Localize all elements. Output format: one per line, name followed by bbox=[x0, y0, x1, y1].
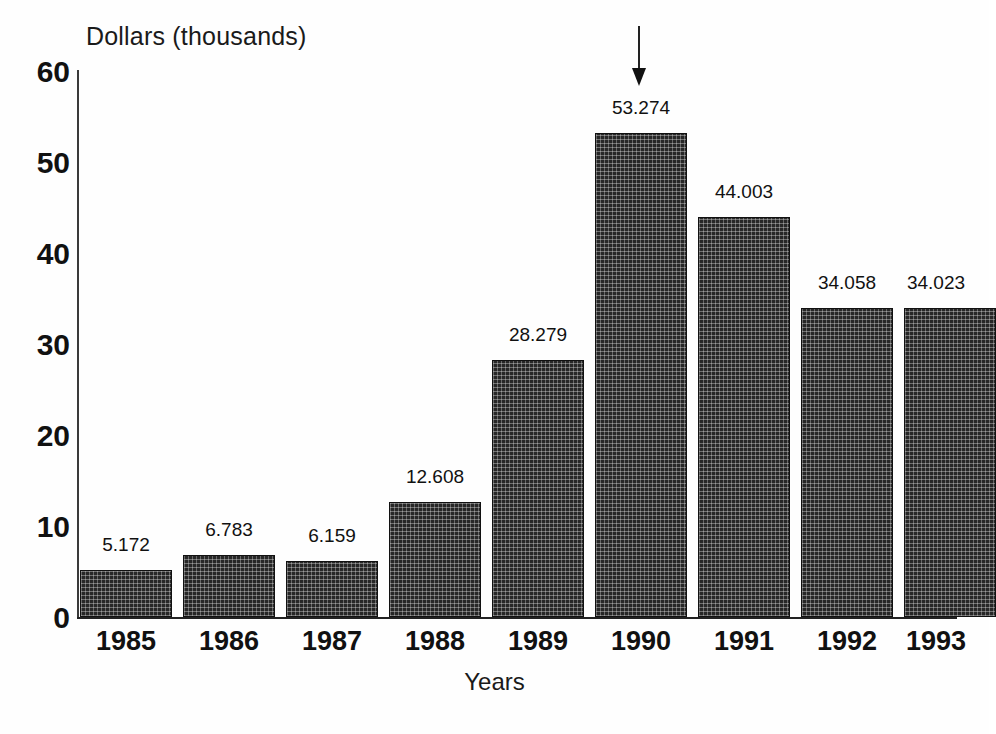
arrow-shaft bbox=[638, 26, 640, 72]
bar-1991[interactable] bbox=[698, 217, 790, 617]
x-tick-label-1992: 1992 bbox=[801, 626, 893, 657]
bar-1993[interactable] bbox=[904, 308, 996, 617]
bar-value-1989: 28.279 bbox=[492, 324, 584, 346]
bar-1989[interactable] bbox=[492, 360, 584, 617]
bar-value-1988: 12.608 bbox=[389, 466, 481, 488]
bar-value-1992: 34.058 bbox=[801, 272, 893, 294]
bar-1986[interactable] bbox=[183, 555, 275, 617]
bar-value-1991: 44.003 bbox=[698, 181, 790, 203]
x-tick-label-1986: 1986 bbox=[183, 626, 275, 657]
x-tick-label-1991: 1991 bbox=[698, 626, 790, 657]
arrow-head bbox=[632, 68, 646, 86]
bar-1992[interactable] bbox=[801, 308, 893, 617]
x-tick-label-1993: 1993 bbox=[890, 626, 982, 657]
bar-value-1987: 6.159 bbox=[286, 525, 378, 547]
annotation-arrow-down-icon bbox=[632, 26, 646, 88]
bar-value-1985: 5.172 bbox=[80, 534, 172, 556]
bar-value-1990: 53.274 bbox=[595, 97, 687, 119]
x-tick-label-1988: 1988 bbox=[389, 626, 481, 657]
bar-value-1993: 34.023 bbox=[890, 272, 982, 294]
x-tick-label-1985: 1985 bbox=[80, 626, 172, 657]
bar-1990[interactable] bbox=[595, 133, 687, 617]
bar-1985[interactable] bbox=[80, 570, 172, 617]
x-axis-title: Years bbox=[0, 668, 989, 696]
x-tick-label-1990: 1990 bbox=[595, 626, 687, 657]
bar-1988[interactable] bbox=[389, 502, 481, 617]
bar-value-1986: 6.783 bbox=[183, 519, 275, 541]
bar-1987[interactable] bbox=[286, 561, 378, 617]
x-tick-label-1987: 1987 bbox=[286, 626, 378, 657]
x-tick-label-1989: 1989 bbox=[492, 626, 584, 657]
